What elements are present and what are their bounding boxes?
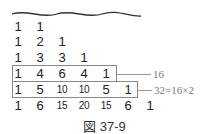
cell: 1: [8, 66, 28, 82]
cell: 1: [118, 82, 138, 98]
cell: 6: [52, 66, 72, 82]
cell: 1: [8, 19, 28, 35]
cell: 15: [96, 98, 116, 114]
cell: 1: [8, 34, 28, 50]
cell: 1: [30, 19, 50, 35]
cell: 2: [30, 34, 50, 50]
cell: 1: [8, 98, 28, 114]
cell: 6: [118, 98, 138, 114]
cell: 10: [52, 82, 72, 98]
cell: 1: [96, 66, 116, 82]
cell: 1: [52, 34, 72, 50]
leader-line-row-4: [117, 74, 151, 75]
cell: 1: [74, 50, 94, 66]
cell: 4: [74, 66, 94, 82]
cell: 4: [30, 66, 50, 82]
leader-line-row-5: [138, 90, 152, 91]
cell: 20: [74, 98, 94, 114]
cell: 15: [52, 98, 72, 114]
row-5-sum-note: 32=16×2: [154, 83, 194, 97]
row-4-sum-note: 16: [153, 67, 164, 81]
cell: 3: [30, 50, 50, 66]
cell: 3: [52, 50, 72, 66]
figure-caption: 図 37-9: [0, 116, 209, 134]
cell: 5: [30, 82, 50, 98]
cell: 1: [8, 82, 28, 98]
cell: 5: [96, 82, 116, 98]
cell: 6: [30, 98, 50, 114]
cell: 10: [74, 82, 94, 98]
cell: 1: [140, 98, 160, 114]
cell: 1: [8, 50, 28, 66]
